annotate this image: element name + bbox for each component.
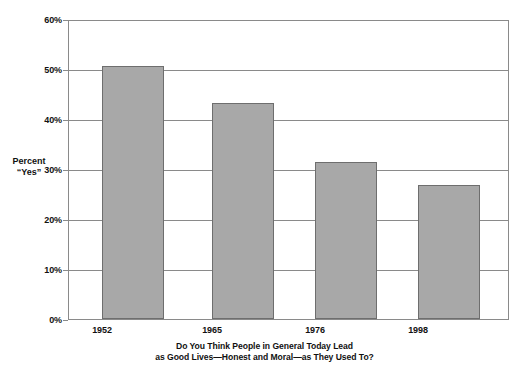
bars-layer [69,21,508,319]
y-tick-label-0: 0% [8,315,62,325]
bar-chart: Percent “Yes” 60% 50% 40% 30% 20% 10% 0%… [0,0,529,370]
chart-caption: Do You Think People in General Today Lea… [0,341,529,363]
y-tick-label-10: 10% [8,265,62,275]
x-tick-label-1952: 1952 [71,325,133,335]
y-tick-label-30: 30% [8,165,62,175]
y-tick-label-20: 20% [8,215,62,225]
y-tick-label-50: 50% [8,65,62,75]
caption-line-2: as Good Lives—Honest and Moral—as They U… [0,352,529,363]
plot-area [68,20,509,320]
bar-1965[interactable] [212,103,274,319]
y-tick-mark-0 [63,320,68,321]
y-axis: 60% 50% 40% 30% 20% 10% 0% [0,0,62,370]
y-tick-label-60: 60% [8,15,62,25]
x-tick-label-1976: 1976 [284,325,346,335]
bar-1998[interactable] [418,185,480,319]
x-tick-label-1998: 1998 [387,325,449,335]
bar-1976[interactable] [315,162,377,320]
x-tick-label-1965: 1965 [181,325,243,335]
caption-line-1: Do You Think People in General Today Lea… [0,341,529,352]
y-tick-label-40: 40% [8,115,62,125]
bar-1952[interactable] [102,66,164,319]
